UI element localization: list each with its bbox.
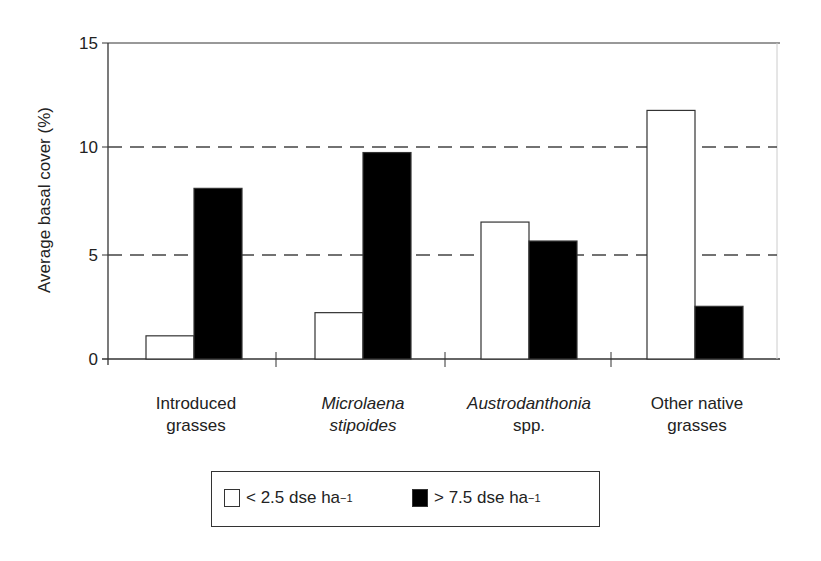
- bar: [695, 306, 743, 359]
- legend-item-high: > 7.5 dse ha−1: [412, 488, 541, 508]
- bar: [481, 222, 529, 359]
- y-tick: 15: [68, 34, 98, 54]
- y-tick: 10: [68, 138, 98, 158]
- swatch-white: [224, 489, 240, 507]
- bar: [647, 110, 695, 359]
- legend: < 2.5 dse ha−1 > 7.5 dse ha−1: [211, 471, 600, 527]
- bar: [529, 241, 577, 359]
- x-label-other-native: Other nativegrasses: [617, 393, 777, 437]
- bar: [363, 153, 411, 359]
- swatch-black: [412, 489, 428, 507]
- bar: [146, 336, 194, 359]
- y-tick: 5: [68, 246, 98, 266]
- y-tick: 0: [68, 350, 98, 370]
- y-axis-title: Average basal cover (%): [35, 85, 55, 315]
- legend-item-low: < 2.5 dse ha−1: [224, 488, 353, 508]
- bar: [194, 188, 242, 359]
- x-label-austrodanthonia: Austrodanthoniaspp.: [449, 393, 609, 437]
- bar: [315, 313, 363, 359]
- x-label-introduced: Introducedgrasses: [116, 393, 276, 437]
- x-label-microlaena: Microlaenastipoides: [283, 393, 443, 437]
